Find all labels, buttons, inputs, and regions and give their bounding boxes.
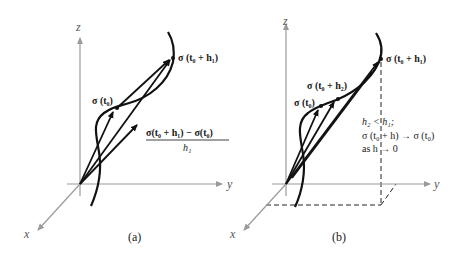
label-sigma-t0-h2: σ (t₀ + h₂): [307, 80, 347, 92]
vector-sigma-t0-h1: [80, 60, 170, 184]
note-line-2: σ (t₀ + h) → σ (t₀): [362, 130, 434, 142]
vectors-a: [80, 60, 170, 184]
x-axis: [244, 184, 286, 230]
y-axis-label: y: [433, 177, 440, 191]
point-sigma-t0-h2: [336, 97, 340, 101]
caption-a: (a): [128, 230, 141, 244]
vector-difference-quotient: [80, 125, 137, 184]
note-line-1: h₂ < h₁;: [362, 116, 394, 127]
note-line-3: as h → 0: [362, 143, 398, 154]
z-axis-label: z: [282, 14, 288, 28]
point-sigma-t0: [319, 104, 323, 108]
caption-b: (b): [332, 230, 346, 244]
label-sigma-t0: σ (t₀): [92, 95, 113, 107]
x-axis: [38, 184, 80, 230]
label-sigma-t0-h1: σ (t₀ + h₁): [386, 53, 426, 65]
x-axis-label: x: [23, 227, 30, 241]
x-axis-label: x: [229, 227, 236, 241]
difference-quotient-numerator: σ(t₀ + h₁) − σ(t₀): [146, 127, 213, 139]
vector-sigma-t0-h2: [286, 102, 334, 184]
panel-b: z y x σ (t₀) σ (t₀ + h₂) σ (t₀ + h₁) h₂ …: [229, 14, 440, 244]
point-sigma-t0: [115, 106, 119, 110]
label-sigma-t0-h1: σ (t₀ + h₁): [178, 52, 218, 64]
point-sigma-t0-h1: [171, 56, 175, 60]
point-sigma-t0-h1: [379, 57, 383, 61]
panel-a: z y x σ (t₀) σ (t₀ + h₁) σ(t₀ + h₁) − σ(…: [23, 20, 233, 244]
label-sigma-t0: σ (t₀): [294, 97, 315, 109]
y-axis-label: y: [226, 177, 233, 191]
derivative-figure: z y x σ (t₀) σ (t₀ + h₁) σ(t₀ + h₁) − σ(…: [0, 0, 466, 257]
curve-sigma: [91, 32, 174, 206]
z-axis-label: z: [75, 20, 81, 34]
difference-quotient-denominator: h₁: [183, 142, 191, 153]
